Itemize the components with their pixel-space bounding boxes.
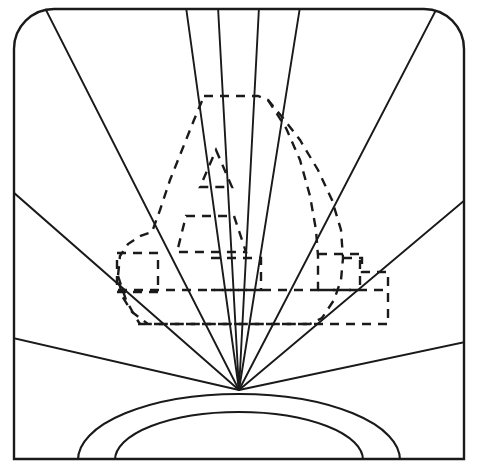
- drawing-canvas: [0, 0, 478, 468]
- sunrise-line-art: [0, 0, 478, 468]
